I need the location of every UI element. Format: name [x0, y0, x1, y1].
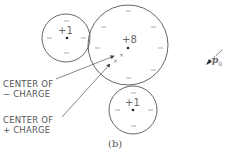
- figure-caption: (b): [108, 138, 122, 149]
- neg-center-label-line2: − CHARGE: [3, 89, 53, 99]
- charge-label-center: +8: [122, 34, 137, 45]
- pos-center-marker: ×: [113, 57, 118, 64]
- pos-center-leader-arrow: [62, 64, 110, 117]
- pos-center-label: CENTER OF + CHARGE: [3, 115, 53, 135]
- oxygen-atom-center: × ×: [88, 5, 168, 85]
- dipole-subscript: 0: [218, 60, 222, 67]
- charge-label-left: +1: [58, 25, 73, 36]
- nucleus-dot: [66, 37, 69, 40]
- neg-center-label-line1: CENTER OF: [3, 79, 53, 89]
- neg-center-marker: ×: [119, 51, 124, 58]
- pos-center-label-line1: CENTER OF: [3, 115, 53, 125]
- nucleus-dot: [132, 109, 135, 112]
- neg-center-leader-arrow: [56, 56, 114, 79]
- charge-label-bottom: +1: [125, 97, 140, 108]
- pos-center-label-line2: + CHARGE: [3, 125, 53, 135]
- dipole-diagram: × × +1 +8 +1 CENTER OF − CHARGE: [0, 0, 230, 153]
- neg-center-label: CENTER OF − CHARGE: [3, 79, 53, 99]
- hydrogen-atom-bottom: [109, 86, 157, 134]
- nucleus-dot: [127, 47, 130, 50]
- hydrogen-atom-left: [42, 14, 90, 62]
- dipole-moment-label: p0: [212, 55, 222, 67]
